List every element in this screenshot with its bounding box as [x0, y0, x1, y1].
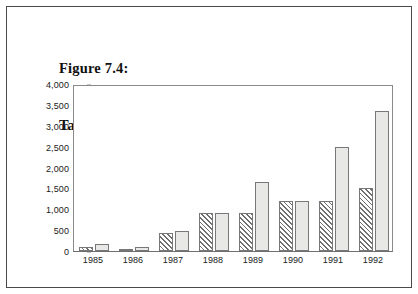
bar-1986-series-1 — [119, 249, 134, 252]
x-axis-tick-label: 1985 — [83, 255, 103, 265]
y-axis-tick-label: 1,500 — [46, 184, 69, 194]
bar-1988-series-1 — [199, 213, 214, 251]
y-axis-tick-label: 3,500 — [46, 101, 69, 111]
bar-group — [274, 86, 314, 251]
y-axis-tick-label: 2,000 — [46, 164, 69, 174]
bar-1990-series-2 — [295, 201, 310, 251]
bars-layer — [74, 86, 392, 251]
bar-1985-series-1 — [79, 247, 94, 251]
bar-group — [234, 86, 274, 251]
bar-group — [154, 86, 194, 251]
bar-1991-series-1 — [319, 201, 334, 251]
y-axis: 05001,0001,5002,0002,5003,0003,5004,000 — [25, 85, 69, 252]
y-axis-tick-label: 2,500 — [46, 143, 69, 153]
bar-group — [354, 86, 394, 251]
y-axis-tick-label: 500 — [54, 226, 69, 236]
y-axis-tick-label: 1,000 — [46, 205, 69, 215]
y-axis-tick-label: 0 — [64, 247, 69, 257]
bar-1991-series-2 — [335, 147, 350, 251]
x-axis-tick-label: 1991 — [323, 255, 343, 265]
x-axis: 19851986198719881989199019911992 — [73, 255, 393, 269]
x-axis-tick-label: 1986 — [123, 255, 143, 265]
bar-1987-series-2 — [175, 231, 190, 251]
bar-1990-series-1 — [279, 201, 294, 251]
plot-area — [73, 85, 393, 252]
x-axis-tick-label: 1990 — [283, 255, 303, 265]
figure-title-line-1: Figure 7.4: — [59, 59, 322, 78]
bar-group — [74, 86, 114, 251]
bar-1992-series-1 — [359, 188, 374, 251]
figure-border: Figure 7.4: Tariff increases versus infl… — [6, 6, 412, 288]
x-axis-tick-label: 1988 — [203, 255, 223, 265]
bar-1988-series-2 — [215, 213, 230, 251]
bar-group — [114, 86, 154, 251]
bar-group — [194, 86, 234, 251]
bar-1986-series-2 — [135, 247, 150, 251]
bar-1992-series-2 — [375, 111, 390, 251]
bar-1985-series-2 — [95, 244, 110, 252]
y-axis-tick-label: 4,000 — [46, 80, 69, 90]
bar-1989-series-2 — [255, 182, 270, 251]
x-axis-tick-label: 1987 — [163, 255, 183, 265]
bar-1989-series-1 — [239, 213, 254, 251]
y-axis-tick-label: 3,000 — [46, 122, 69, 132]
x-axis-tick-label: 1992 — [363, 255, 383, 265]
bar-1987-series-1 — [159, 233, 174, 251]
x-axis-tick-label: 1989 — [243, 255, 263, 265]
bar-group — [314, 86, 354, 251]
